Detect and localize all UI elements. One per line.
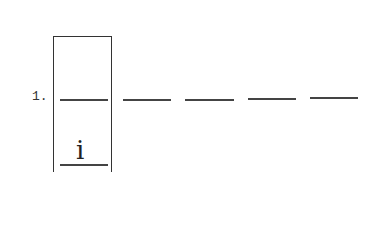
blank-2[interactable]: [185, 99, 234, 101]
box-blank-bottom[interactable]: [60, 164, 108, 166]
answer-glyph: i: [76, 137, 84, 163]
item-number: 1.: [32, 89, 48, 104]
box-blank-top[interactable]: [60, 99, 108, 101]
blank-3[interactable]: [248, 98, 296, 100]
blank-1[interactable]: [123, 99, 171, 101]
blank-4[interactable]: [310, 97, 358, 99]
